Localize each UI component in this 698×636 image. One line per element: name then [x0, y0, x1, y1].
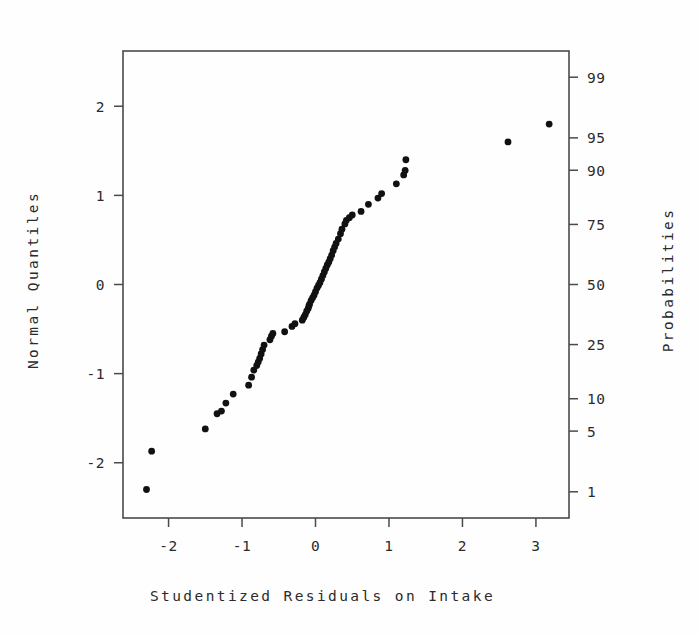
y-axis-ticks: -2-1012 [87, 99, 123, 471]
y2-tick-label: 50 [587, 277, 605, 293]
data-point [148, 448, 155, 455]
data-point [349, 212, 356, 219]
data-point [393, 180, 400, 187]
data-point [269, 330, 276, 337]
y2-tick-label: 5 [587, 424, 596, 440]
y2-tick-label: 99 [587, 70, 605, 86]
y-tick-label: -1 [87, 366, 105, 382]
data-point [230, 391, 237, 398]
x-axis-ticks: -2-10123 [159, 518, 540, 554]
plot-canvas: -2-10123 -2-1012 1510255075909599 [0, 0, 698, 636]
data-point [222, 400, 229, 407]
y-axis-title: Normal Quantiles [25, 165, 41, 395]
y-tick-label: 1 [96, 188, 105, 204]
plot-frame [123, 51, 569, 518]
data-point [402, 167, 409, 174]
data-point [358, 208, 365, 215]
x-axis-title: Studentized Residuals on Intake [0, 588, 645, 604]
x-tick-label: -1 [233, 538, 251, 554]
data-point [261, 342, 268, 349]
data-point [378, 190, 385, 197]
data-point [248, 374, 255, 381]
x-tick-label: -2 [159, 538, 177, 554]
x-tick-label: 2 [458, 538, 467, 554]
y-tick-label: 2 [96, 99, 105, 115]
y2-tick-label: 95 [587, 130, 605, 146]
y2-axis-title: Probabilities [660, 165, 676, 395]
data-point [218, 408, 225, 415]
y2-tick-label: 90 [587, 163, 605, 179]
data-point [505, 139, 512, 146]
x-tick-label: 0 [311, 538, 320, 554]
x-tick-label: 3 [531, 538, 540, 554]
y-tick-label: 0 [96, 277, 105, 293]
qq-plot-figure: -2-10123 -2-1012 1510255075909599 Normal… [0, 0, 698, 636]
data-point [292, 320, 299, 327]
y2-axis-ticks: 1510255075909599 [569, 70, 605, 501]
data-point [402, 156, 409, 163]
y2-tick-label: 75 [587, 217, 605, 233]
data-point [365, 201, 372, 208]
data-point [143, 486, 150, 493]
x-tick-label: 1 [384, 538, 393, 554]
data-point [281, 328, 288, 335]
data-points [143, 121, 552, 493]
data-point [546, 121, 553, 128]
y2-tick-label: 25 [587, 337, 605, 353]
y2-tick-label: 10 [587, 391, 605, 407]
data-point [202, 425, 209, 432]
y-tick-label: -2 [87, 455, 105, 471]
data-point [245, 382, 252, 389]
y2-tick-label: 1 [587, 484, 596, 500]
